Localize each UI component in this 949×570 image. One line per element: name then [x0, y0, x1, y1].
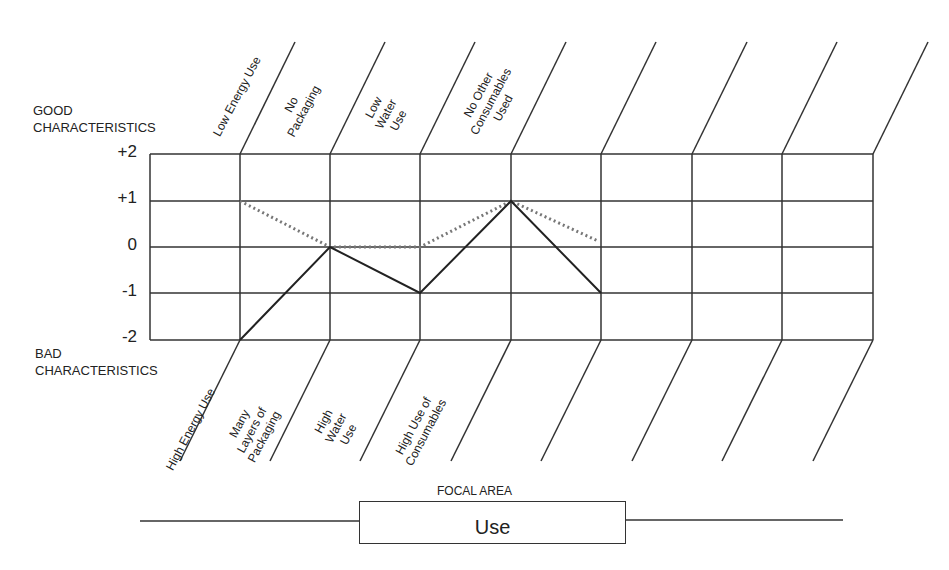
good-label-line2: CHARACTERISTICS — [33, 119, 156, 136]
grid-lines — [150, 42, 928, 461]
y-tick-plus1: +1 — [97, 191, 137, 205]
bad-characteristics-label: BAD CHARACTERISTICS — [35, 345, 158, 379]
dotted-series-line — [240, 201, 598, 247]
y-tick-plus2: +2 — [97, 145, 137, 159]
bad-label-line1: BAD — [35, 345, 158, 362]
focal-area-title: FOCAL AREA — [437, 484, 512, 498]
y-tick-0: 0 — [97, 238, 137, 252]
focal-area-value: Use — [360, 516, 625, 539]
focal-area-box: Use — [359, 501, 626, 544]
bad-label-line2: CHARACTERISTICS — [35, 362, 158, 379]
good-characteristics-label: GOOD CHARACTERISTICS — [33, 102, 156, 136]
y-tick-minus1: -1 — [97, 284, 137, 298]
y-tick-minus2: -2 — [97, 330, 137, 344]
good-label-line1: GOOD — [33, 102, 156, 119]
